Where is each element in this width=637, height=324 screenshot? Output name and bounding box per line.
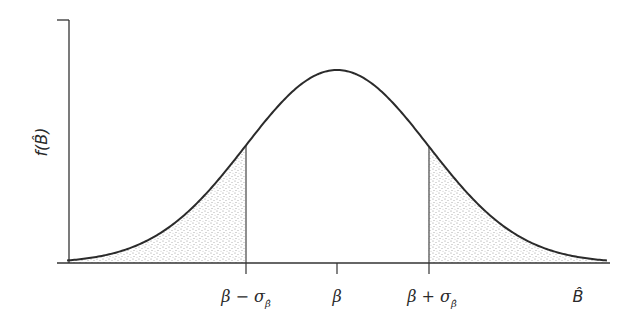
density-curve: [67, 70, 607, 261]
x-axis-label: B̂: [573, 287, 584, 306]
tick-label-minus-sigma: β − σβ̂: [220, 287, 271, 309]
tick-label-plus-main: β + σ: [406, 287, 452, 306]
right-tail-shaded-region: [429, 146, 607, 263]
svg-text:β + σβ̂: β + σβ̂: [406, 287, 457, 309]
y-axis-label: f(B̂): [32, 127, 51, 156]
tick-label-plus-sub: β̂: [450, 298, 457, 309]
svg-text:β − σβ̂: β − σβ̂: [220, 287, 271, 309]
normal-distribution-diagram: f(B̂) β − σβ̂ β β + σβ̂ B̂: [0, 0, 637, 324]
y-axis-label-text: f(B̂): [32, 127, 51, 156]
tick-label-minus-main: β − σ: [220, 287, 266, 306]
tick-label-minus-sub: β̂: [264, 298, 271, 309]
left-tail-shaded-region: [67, 147, 245, 263]
tick-label-plus-sigma: β + σβ̂: [406, 287, 457, 309]
tick-label-beta: β: [331, 287, 341, 306]
